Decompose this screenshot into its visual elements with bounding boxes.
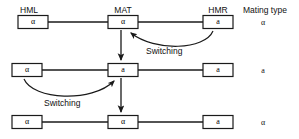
allele-mat-row-2: a xyxy=(108,65,138,75)
switching-label-1: Switching xyxy=(146,46,182,56)
allele-hmr-row-2: a xyxy=(203,65,233,75)
allele-hmr-row-1: a xyxy=(203,17,233,27)
switching-arrow-hmr-to-mat xyxy=(131,31,213,46)
locus-label-hml: HML xyxy=(10,5,48,15)
allele-hmr-row-3: a xyxy=(203,117,233,127)
mating-type-switching-figure: HML MAT HMR Mating type α α a α α a a a … xyxy=(0,0,299,139)
switching-label-2: Switching xyxy=(44,98,80,108)
mating-type-row-2: a xyxy=(245,66,281,76)
switching-arrow-hml-to-mat xyxy=(24,79,114,96)
locus-label-hmr: HMR xyxy=(198,5,238,15)
allele-hml-row-1: α xyxy=(18,17,48,27)
allele-hml-row-3: α xyxy=(12,117,42,127)
mating-type-row-3: α xyxy=(245,118,281,128)
allele-mat-row-3: α xyxy=(108,117,138,127)
locus-label-mat: MAT xyxy=(103,5,143,15)
mating-type-header: Mating type xyxy=(243,5,287,15)
mating-type-row-1: α xyxy=(245,18,281,28)
allele-hml-row-2: α xyxy=(12,65,42,75)
allele-mat-row-1: α xyxy=(108,17,138,27)
